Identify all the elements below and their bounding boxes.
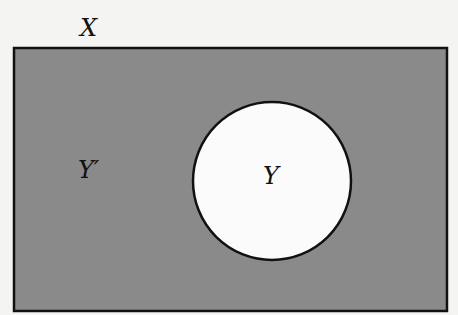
venn-diagram: X Y′ Y: [0, 0, 458, 315]
complement-label: Y′: [78, 156, 100, 184]
universal-set-label: X: [78, 14, 98, 42]
set-y-label: Y: [263, 162, 281, 190]
